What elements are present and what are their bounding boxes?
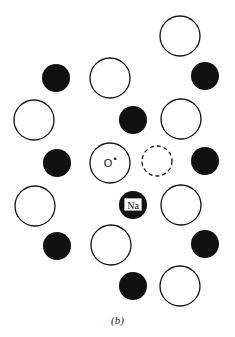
sodium-ion: Na xyxy=(119,191,147,219)
sodium-label: Na xyxy=(127,200,139,211)
oxygen-ion xyxy=(15,186,55,226)
svg-text:•: • xyxy=(113,154,116,164)
figure-caption: (b) xyxy=(0,314,235,326)
vacancy-site xyxy=(142,146,172,176)
oxygen-ion xyxy=(90,58,130,98)
sodium-ion xyxy=(43,149,71,177)
oxygen-ion: O• xyxy=(90,143,130,183)
sodium-ion xyxy=(42,64,70,92)
crystal-lattice-diagram: O•Na xyxy=(0,0,235,337)
oxygen-ion xyxy=(161,185,201,225)
oxygen-ion xyxy=(91,225,131,265)
sodium-ion xyxy=(191,230,219,258)
sodium-ion xyxy=(119,106,147,134)
sodium-ion xyxy=(119,272,147,300)
sodium-ion xyxy=(43,232,71,260)
sodium-ion xyxy=(191,62,219,90)
sodium-ion xyxy=(191,147,219,175)
oxygen-label: O xyxy=(104,157,113,169)
oxygen-ion xyxy=(14,100,54,140)
oxygen-ion xyxy=(160,266,200,306)
oxygen-ion xyxy=(161,99,201,139)
oxygen-ion xyxy=(160,16,200,56)
